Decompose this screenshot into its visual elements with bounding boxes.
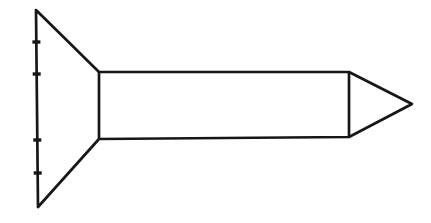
screw-silhouette (36, 10, 412, 207)
screw-diagram (0, 0, 431, 223)
scanned-page (0, 0, 431, 223)
